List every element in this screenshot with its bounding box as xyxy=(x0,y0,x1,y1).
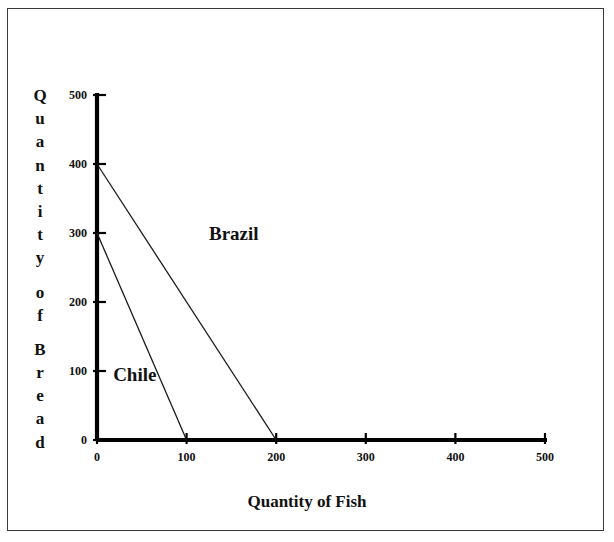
x-tick-label: 200 xyxy=(267,450,285,464)
x-tick-label: 500 xyxy=(536,450,554,464)
y-tick-label: 0 xyxy=(81,433,87,447)
y-tick-label: 300 xyxy=(69,226,87,240)
axis-ticks xyxy=(93,95,545,444)
series-label-chile: Chile xyxy=(113,364,156,385)
ppf-lines xyxy=(97,164,276,440)
y-tick-label: 500 xyxy=(69,88,87,102)
x-tick-label: 400 xyxy=(446,450,464,464)
y-tick-label: 400 xyxy=(69,157,87,171)
x-tick-label: 100 xyxy=(178,450,196,464)
plot-area: 01002003004005000100200300400500 BrazilC… xyxy=(0,0,614,542)
series-labels: BrazilChile xyxy=(113,223,258,385)
y-tick-label: 200 xyxy=(69,295,87,309)
ppf-line-chile xyxy=(97,233,187,440)
axis-tick-labels: 01002003004005000100200300400500 xyxy=(69,88,554,464)
series-label-brazil: Brazil xyxy=(209,223,259,244)
y-tick-label: 100 xyxy=(69,364,87,378)
x-tick-label: 0 xyxy=(94,450,100,464)
x-tick-label: 300 xyxy=(357,450,375,464)
chart-figure: QuantityofBread 010020030040050001002003… xyxy=(0,0,614,542)
ppf-line-brazil xyxy=(97,164,276,440)
x-axis-title: Quantity of Fish xyxy=(0,492,614,512)
